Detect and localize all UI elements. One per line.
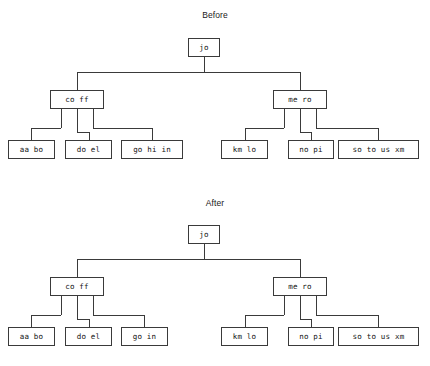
node-leaf-after-do-el: do el [65,327,112,346]
node-internal-right-after: me ro [273,277,327,296]
node-internal-left-after: co ff [50,277,104,296]
panel-after: After jo co ff me r [0,190,430,366]
node-internal-right-before: me ro [273,90,327,109]
node-leaf-after-aa-bo: aa bo [8,327,55,346]
node-leaf-before-km-lo: km lo [221,140,268,159]
node-leaf-before-do-el: do el [65,140,112,159]
node-root-after: jo [188,225,220,244]
node-leaf-before-go-hi-in: go hi in [121,140,183,159]
node-internal-left-before: co ff [50,90,104,109]
panel-title-before: Before [0,10,430,20]
node-leaf-before-no-pi: no pi [288,140,334,159]
node-leaf-before-aa-bo: aa bo [8,140,55,159]
tree-comparison-diagram: Before [0,0,430,366]
node-leaf-before-so-to-us-xm: so to us xm [338,140,419,159]
node-root-before: jo [188,38,220,57]
node-leaf-after-so-to-us-xm: so to us xm [338,327,419,346]
node-leaf-after-km-lo: km lo [221,327,268,346]
panel-before: Before [0,0,430,190]
panel-title-after: After [0,198,430,208]
node-leaf-after-no-pi: no pi [288,327,334,346]
node-leaf-after-go-in: go in [121,327,168,346]
